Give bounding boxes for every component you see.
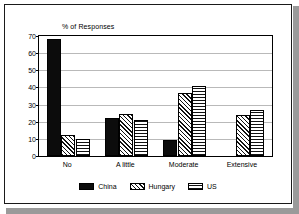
y-axis-tick-label: 60: [28, 50, 36, 57]
bar-china-no: [47, 39, 61, 156]
chart-figure: % of Responses 010203040506070 NoA littl…: [0, 0, 299, 214]
bar-us-a-little: [134, 120, 148, 156]
y-axis-tick-label: 20: [28, 118, 36, 125]
legend-item-us: US: [188, 183, 217, 190]
bar-hungary-extensive: [236, 115, 250, 156]
legend-label: China: [98, 183, 116, 190]
y-axis-tick-label: 50: [28, 67, 36, 74]
legend-swatch-us-icon: [188, 183, 203, 190]
y-axis-tick-label: 40: [28, 84, 36, 91]
bar-china-moderate: [163, 140, 177, 156]
bar-china-a-little: [105, 118, 119, 156]
bar-series-container: [39, 36, 272, 156]
legend-swatch-hungary-icon: [130, 183, 145, 190]
bar-hungary-moderate: [178, 93, 192, 156]
x-axis-label: A little: [116, 161, 135, 168]
legend-label: Hungary: [149, 183, 175, 190]
legend-item-hungary: Hungary: [130, 183, 175, 190]
x-axis-label: Moderate: [169, 161, 199, 168]
plot-area: 010203040506070: [38, 35, 273, 157]
legend-label: US: [207, 183, 217, 190]
chart-canvas: % of Responses 010203040506070 NoA littl…: [5, 5, 291, 203]
bar-us-no: [76, 139, 90, 156]
bar-us-moderate: [192, 86, 206, 156]
bar-hungary-a-little: [119, 114, 133, 156]
y-axis-tick-mark: [36, 156, 39, 157]
y-axis-tick-label: 70: [28, 33, 36, 40]
figure-shadow-right: [293, 6, 299, 214]
y-axis-tick-label: 0: [32, 153, 36, 160]
chart-frame: % of Responses 010203040506070 NoA littl…: [4, 4, 292, 204]
chart-legend: ChinaHungaryUS: [5, 183, 291, 190]
x-axis-label: No: [63, 161, 72, 168]
legend-item-china: China: [79, 183, 116, 190]
y-axis-tick-label: 10: [28, 135, 36, 142]
figure-shadow-bottom: [6, 208, 299, 214]
bar-hungary-no: [61, 135, 75, 156]
bar-us-extensive: [250, 110, 264, 156]
x-axis-label: Extensive: [227, 161, 257, 168]
legend-swatch-china-icon: [79, 183, 94, 190]
y-axis-tick-label: 30: [28, 101, 36, 108]
y-axis-title: % of Responses: [62, 23, 114, 30]
